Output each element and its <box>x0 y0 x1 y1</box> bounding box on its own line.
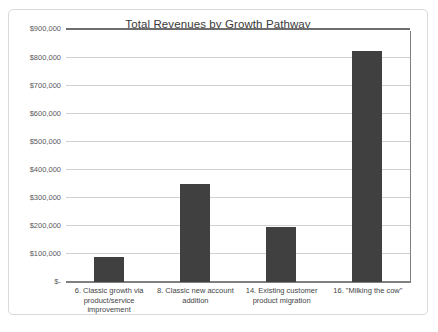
y-axis-tick-label: $100,000 <box>30 249 61 258</box>
plot-area: $-$100,000$200,000$300,000$400,000$500,0… <box>66 31 411 283</box>
y-axis-tick-label: $700,000 <box>30 81 61 90</box>
y-axis-tick-label: $500,000 <box>30 137 61 146</box>
bar-slot <box>66 31 152 282</box>
x-axis-labels: 6. Classic growth via product/service im… <box>66 286 411 322</box>
bar[interactable] <box>352 51 382 282</box>
bar-slot <box>152 31 238 282</box>
y-axis-tick-label: $200,000 <box>30 221 61 230</box>
bar[interactable] <box>94 257 124 282</box>
gridline: $900,000 <box>66 28 410 30</box>
bars-group <box>66 31 410 282</box>
y-axis-tick-label: $400,000 <box>30 165 61 174</box>
y-axis-tick-label: $300,000 <box>30 193 61 202</box>
x-axis-tick-label: 8. Classic new account addition <box>152 286 238 305</box>
x-axis-tick-label: 16. "Milking the cow" <box>325 286 411 296</box>
x-axis-tick-label: 6. Classic growth via product/service im… <box>66 286 152 315</box>
y-axis-tick-label: $600,000 <box>30 109 61 118</box>
y-axis-tick-label: $- <box>54 276 61 285</box>
bar[interactable] <box>180 184 210 282</box>
chart-container: Total Revenues by Growth Pathway $-$100,… <box>8 9 428 315</box>
x-axis-tick-label: 14. Existing customer product migration <box>239 286 325 305</box>
bar-slot <box>324 31 410 282</box>
bar[interactable] <box>266 227 296 282</box>
y-axis-tick-label: $800,000 <box>30 53 61 62</box>
bar-slot <box>238 31 324 282</box>
y-axis-tick-label: $900,000 <box>30 24 61 33</box>
